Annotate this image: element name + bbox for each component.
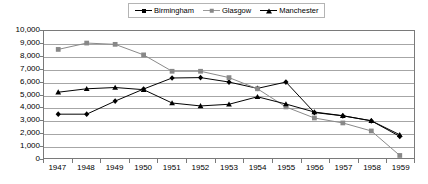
- data-point-marker: [198, 75, 203, 81]
- data-point-marker: [169, 75, 174, 81]
- x-axis-tick-label: 1950: [134, 163, 152, 173]
- chart-legend: Birmingham Glasgow Manchester: [128, 3, 325, 18]
- series-line: [58, 78, 400, 137]
- data-point-marker: [169, 100, 175, 105]
- data-point-marker: [84, 111, 89, 117]
- y-axis-ticks: [0, 30, 43, 159]
- x-axis-tick-label: 1959: [392, 163, 410, 173]
- x-axis-tick-label: 1957: [335, 163, 353, 173]
- x-axis-tick-label: 1948: [77, 163, 95, 173]
- data-point-marker: [141, 53, 146, 58]
- legend-label-birmingham: Birmingham: [154, 6, 194, 15]
- legend-marker-square-icon: [203, 6, 220, 15]
- data-point-marker: [170, 69, 175, 74]
- series-birmingham: [56, 75, 403, 140]
- data-point-marker: [226, 79, 231, 85]
- x-axis-tick-label: 1956: [306, 163, 324, 173]
- x-axis-tick-label: 1951: [163, 163, 181, 173]
- x-axis-tick-label: 1947: [48, 163, 66, 173]
- data-point-marker: [369, 129, 374, 134]
- legend-label-manchester: Manchester: [279, 6, 318, 15]
- series-line: [58, 43, 400, 155]
- line-chart: Birmingham Glasgow Manchester 10,0009,00…: [0, 0, 428, 184]
- x-axis-tick-label: 1958: [363, 163, 381, 173]
- data-point-marker: [227, 75, 232, 80]
- legend-item-manchester[interactable]: Manchester: [260, 6, 318, 15]
- series-line: [58, 88, 400, 135]
- data-point-marker: [198, 69, 203, 74]
- data-point-marker: [56, 47, 61, 52]
- data-point-marker: [312, 116, 317, 121]
- x-axis-tick-label: 1952: [191, 163, 209, 173]
- data-point-marker: [113, 42, 118, 47]
- data-point-marker: [340, 121, 345, 126]
- plot-area: [43, 30, 415, 159]
- legend-item-glasgow[interactable]: Glasgow: [203, 6, 251, 15]
- x-axis-tick-label: 1949: [106, 163, 124, 173]
- data-point-marker: [113, 98, 118, 104]
- data-point-marker: [255, 94, 261, 99]
- data-point-marker: [84, 41, 89, 46]
- data-point-marker: [397, 132, 403, 137]
- legend-item-birmingham[interactable]: Birmingham: [135, 6, 194, 15]
- legend-marker-diamond-icon: [135, 6, 152, 15]
- series-manchester: [55, 85, 402, 137]
- data-point-marker: [397, 153, 402, 158]
- legend-label-glasgow: Glasgow: [222, 6, 251, 15]
- x-axis-tick-label: 1955: [277, 163, 295, 173]
- series-layer: [44, 31, 414, 158]
- data-point-marker: [56, 111, 61, 117]
- x-axis-labels: 1947194819491950195119521953195419551956…: [43, 163, 415, 177]
- legend-marker-triangle-icon: [260, 6, 277, 15]
- x-axis-tick-label: 1954: [249, 163, 267, 173]
- data-point-marker: [255, 86, 260, 91]
- x-axis-tick-label: 1953: [220, 163, 238, 173]
- series-glasgow: [56, 41, 402, 158]
